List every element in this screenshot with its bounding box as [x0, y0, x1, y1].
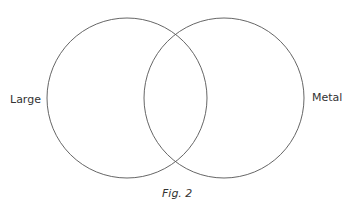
set-label-large: Large: [10, 93, 41, 106]
circle-metal: [144, 18, 304, 178]
circle-large: [47, 18, 207, 178]
set-label-metal: Metal: [312, 91, 342, 104]
venn-diagram: [0, 0, 350, 214]
figure-caption: Fig. 2: [162, 187, 192, 200]
